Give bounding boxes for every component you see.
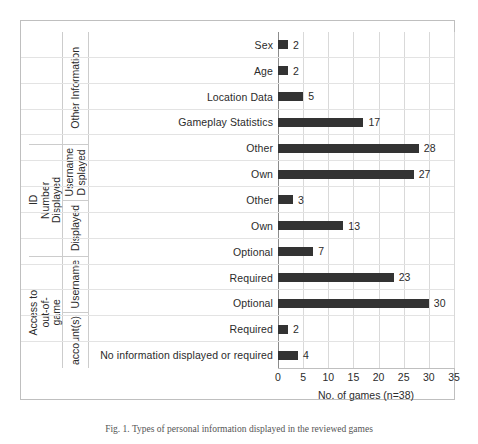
x-tick-label-15: 15 [348, 371, 360, 383]
x-tick-label-10: 10 [322, 371, 334, 383]
bar-value-label: 30 [434, 298, 446, 309]
bar-container: 13 [278, 213, 454, 239]
category-label: Optional [233, 239, 273, 265]
bar[interactable] [278, 221, 343, 230]
category-label: Required [230, 316, 273, 342]
bar-row: Required2 [21, 316, 454, 342]
bar-row: Optional30 [21, 290, 454, 316]
bar[interactable] [278, 247, 313, 256]
bar-container: 2 [278, 32, 454, 58]
bar-container: 3 [278, 187, 454, 213]
x-axis-line [278, 368, 454, 369]
x-tick-label-20: 20 [373, 371, 385, 383]
bar-value-label: 13 [348, 221, 360, 232]
bar-container: 4 [278, 342, 454, 368]
bar-container: 2 [278, 58, 454, 84]
bar[interactable] [278, 66, 288, 75]
gridline-35 [454, 32, 455, 368]
category-label: Other [246, 135, 273, 161]
bar-value-label: 2 [293, 324, 299, 335]
category-label: No information displayed or required [100, 342, 273, 368]
bar[interactable] [278, 40, 288, 49]
x-tick-label-5: 5 [300, 371, 306, 383]
bar-value-label: 28 [424, 143, 436, 154]
bar-row: Sex2 [21, 32, 454, 58]
category-label: Age [254, 58, 273, 84]
category-label: Own [251, 213, 273, 239]
bar[interactable] [278, 92, 303, 101]
bar-value-label: 7 [318, 246, 324, 257]
bar-container: 28 [278, 135, 454, 161]
bar-value-label: 4 [303, 350, 309, 361]
bar-container: 7 [278, 239, 454, 265]
bar[interactable] [278, 170, 414, 179]
bar-row: Own27 [21, 161, 454, 187]
category-label: Optional [233, 290, 273, 316]
x-tick-label-0: 0 [275, 371, 281, 383]
bar[interactable] [278, 273, 394, 282]
bar-value-label: 17 [368, 117, 380, 128]
bar-row: Location Data5 [21, 84, 454, 110]
bar[interactable] [278, 325, 288, 334]
bar-row: Optional7 [21, 239, 454, 265]
bar-row: Required23 [21, 265, 454, 291]
bar[interactable] [278, 351, 298, 360]
bar-container: 2 [278, 316, 454, 342]
x-axis-title: No. of games (n=38) [278, 389, 454, 401]
bar[interactable] [278, 118, 363, 127]
x-tick-label-35: 35 [448, 371, 460, 383]
bar-value-label: 2 [293, 66, 299, 77]
x-tick-label-25: 25 [398, 371, 410, 383]
bar-row: Gameplay Statistics17 [21, 110, 454, 136]
category-label: Other [246, 187, 273, 213]
bar[interactable] [278, 195, 293, 204]
bar[interactable] [278, 299, 429, 308]
figure-container: ID Number Displayed Access to out-of- ga… [0, 0, 478, 444]
x-tick-label-30: 30 [423, 371, 435, 383]
bar-container: 17 [278, 110, 454, 136]
chart-frame: ID Number Displayed Access to out-of- ga… [20, 20, 455, 400]
bar-value-label: 23 [399, 272, 411, 283]
bar-value-label: 2 [293, 40, 299, 51]
category-label: Required [230, 265, 273, 291]
category-label: Own [251, 161, 273, 187]
bar[interactable] [278, 144, 419, 153]
bar-row: Other28 [21, 135, 454, 161]
bar-rows: Sex2Age2Location Data5Gameplay Statistic… [21, 32, 454, 368]
category-label: Location Data [207, 84, 273, 110]
category-label: Gameplay Statistics [178, 110, 273, 136]
category-label: Sex [255, 32, 273, 58]
bar-value-label: 27 [419, 169, 431, 180]
bar-row: Own13 [21, 213, 454, 239]
bar-value-label: 5 [308, 91, 314, 102]
bar-container: 23 [278, 265, 454, 291]
bar-container: 30 [278, 290, 454, 316]
bar-container: 5 [278, 84, 454, 110]
figure-caption: Fig. 1. Types of personal information di… [0, 424, 478, 434]
bar-container: 27 [278, 161, 454, 187]
bar-row: Age2 [21, 58, 454, 84]
bar-row: No information displayed or required4 [21, 342, 454, 368]
bar-row: Other3 [21, 187, 454, 213]
bar-value-label: 3 [298, 195, 304, 206]
